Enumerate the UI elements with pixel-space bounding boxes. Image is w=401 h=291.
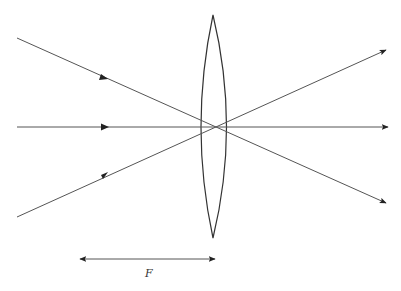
lens-ray-diagram bbox=[0, 0, 401, 291]
arrow-icon bbox=[101, 172, 108, 179]
axis-ray bbox=[17, 124, 388, 131]
upper-ray bbox=[17, 38, 386, 203]
focal-length-label: F bbox=[145, 267, 153, 280]
arrow-icon bbox=[101, 124, 109, 131]
lower-ray bbox=[17, 50, 386, 217]
